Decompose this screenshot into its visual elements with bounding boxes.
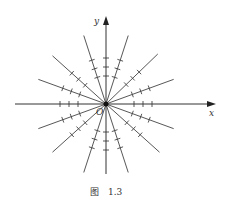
figure-caption: 图 1.3 <box>90 187 123 197</box>
y-axis-arrow-icon <box>103 16 109 25</box>
origin-label: O <box>96 107 104 117</box>
direction-field-diagram: x y O 图 1.3 <box>0 0 231 206</box>
origin-point <box>104 102 109 107</box>
x-axis-arrow-icon <box>207 101 216 107</box>
x-axis-label: x <box>209 108 214 118</box>
y-axis-label: y <box>93 16 100 26</box>
